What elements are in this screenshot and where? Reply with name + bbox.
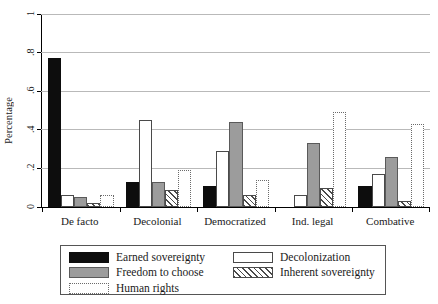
bar-group [275, 14, 353, 207]
bar [126, 182, 139, 207]
bar [320, 188, 333, 207]
x-category-label: De facto [35, 215, 125, 228]
legend-entry: Freedom to choose [69, 266, 205, 280]
bar [165, 190, 178, 207]
bar-group [197, 14, 275, 207]
y-axis-tick-labels: 0.2.4.6.81 [16, 0, 38, 236]
plot-area: Percentage 0.2.4.6.81 [0, 0, 438, 236]
bar [358, 186, 371, 207]
bar-group [120, 14, 198, 207]
legend-label: Decolonization [280, 251, 350, 264]
x-tick-mark [352, 207, 353, 212]
x-category-label: Combative [345, 215, 435, 228]
bar [100, 195, 113, 207]
bar [307, 143, 320, 207]
x-tick-mark [429, 207, 430, 212]
legend-label: Inherent sovereignty [280, 266, 375, 279]
bar [294, 195, 307, 207]
x-tick-mark [197, 207, 198, 212]
legend-swatch [69, 267, 109, 278]
legend-swatch [233, 252, 273, 263]
legend-entry: Human rights [69, 281, 205, 295]
bar [229, 122, 242, 207]
legend-swatch [69, 283, 109, 294]
bar [411, 124, 424, 207]
x-tick-mark [120, 207, 121, 212]
bar [243, 195, 256, 207]
legend-swatch [233, 267, 273, 278]
legend-entry: Decolonization [233, 250, 375, 264]
bar [139, 120, 152, 207]
bar [178, 170, 191, 207]
y-tick-label: .2 [16, 162, 36, 173]
y-tick-label: .8 [16, 47, 36, 58]
x-tick-mark [275, 207, 276, 212]
y-tick-label: .4 [16, 124, 36, 135]
axes-frame [41, 14, 430, 207]
bar [372, 174, 385, 207]
x-category-label: Democratized [190, 215, 280, 228]
bar [385, 157, 398, 207]
bar [152, 182, 165, 207]
bar [256, 180, 269, 207]
bar [74, 197, 87, 207]
legend-column-left: Earned sovereigntyFreedom to chooseHuman… [69, 250, 205, 297]
legend-column-right: DecolonizationInherent sovereignty [233, 250, 375, 281]
legend-label: Freedom to choose [116, 266, 204, 279]
x-category-label: Decolonial [113, 215, 203, 228]
bar [48, 58, 61, 207]
legend-label: Human rights [116, 282, 179, 295]
bar-group [42, 14, 120, 207]
x-tick-mark [42, 207, 43, 212]
y-tick-label: 0 [16, 201, 36, 212]
bar-group [352, 14, 430, 207]
legend-entry: Earned sovereignty [69, 250, 205, 264]
legend-swatch [69, 252, 109, 263]
bar [333, 112, 346, 207]
bar-groups [42, 14, 430, 207]
x-axis-line [41, 207, 430, 208]
legend-label: Earned sovereignty [116, 251, 205, 264]
y-tick-label: 1 [16, 8, 36, 19]
bar [203, 186, 216, 207]
chart-legend: Earned sovereigntyFreedom to chooseHuman… [60, 245, 386, 295]
x-axis: De factoDecolonialDemocratizedInd. legal… [41, 207, 430, 237]
bar [216, 151, 229, 207]
bar [61, 195, 74, 207]
legend-entry: Inherent sovereignty [233, 266, 375, 280]
bar-chart-figure: Percentage 0.2.4.6.81 De factoDecolonial… [0, 0, 438, 304]
x-category-label: Ind. legal [268, 215, 358, 228]
y-tick-label: .6 [16, 85, 36, 96]
y-axis-title: Percentage [2, 60, 16, 180]
